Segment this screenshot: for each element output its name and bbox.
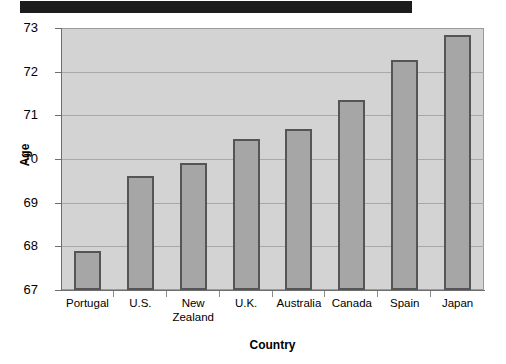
bar[interactable]	[74, 251, 101, 290]
bar[interactable]	[338, 100, 365, 290]
y-tick-label: 69	[0, 196, 38, 209]
bar-slot	[378, 28, 431, 290]
y-tick-label: 68	[0, 239, 38, 252]
y-axis-title: Age	[18, 127, 32, 183]
x-tick-label: U.K.	[220, 296, 273, 324]
x-tick-label: Spain	[378, 296, 431, 324]
bar[interactable]	[180, 163, 207, 290]
y-tick-label: 72	[0, 65, 38, 78]
y-tick-label: 71	[0, 108, 38, 121]
bar[interactable]	[391, 60, 418, 290]
bar-slot	[114, 28, 167, 290]
bar[interactable]	[127, 176, 154, 290]
x-axis-title: Country	[61, 338, 484, 352]
y-tick-label: 67	[0, 283, 38, 296]
bar-slot	[273, 28, 326, 290]
bar-slot	[220, 28, 273, 290]
bar-slot	[431, 28, 484, 290]
bar[interactable]	[233, 139, 260, 290]
x-tick-label: Australia	[273, 296, 326, 324]
bars-layer	[61, 28, 484, 290]
x-tick-label: Canada	[325, 296, 378, 324]
x-tick-label: New Zealand	[167, 296, 220, 324]
bar-slot	[167, 28, 220, 290]
x-tick-label: U.S.	[114, 296, 167, 324]
x-tick-label: Portugal	[61, 296, 114, 324]
bar-slot	[325, 28, 378, 290]
bar-slot	[61, 28, 114, 290]
x-tick-label: Japan	[431, 296, 484, 324]
x-axis-labels: PortugalU.S.New ZealandU.K.AustraliaCana…	[61, 296, 484, 324]
bar[interactable]	[285, 129, 312, 290]
bar[interactable]	[444, 35, 471, 290]
y-tick-label: 73	[0, 21, 38, 34]
bar-chart: 67686970717273 PortugalU.S.New ZealandU.…	[0, 0, 506, 364]
